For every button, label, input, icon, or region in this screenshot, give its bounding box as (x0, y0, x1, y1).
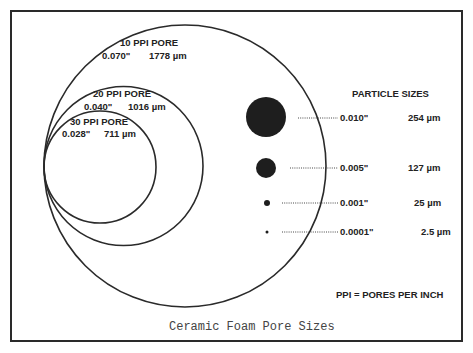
particle-0001-microns: 25 µm (414, 197, 441, 208)
particle-dot-00001 (266, 231, 269, 234)
particle-dot-0001 (264, 200, 270, 206)
pore-30ppi-label: 30 PPI PORE (70, 116, 128, 127)
particle-0005-microns: 127 µm (408, 162, 440, 173)
pore-20ppi-inches: 0.040" (84, 101, 112, 112)
pore-circle-10ppi (44, 25, 326, 307)
pore-size-diagram: 10 PPI PORE 0.070" 1778 µm 20 PPI PORE 0… (0, 0, 473, 353)
pore-30ppi-microns: 711 µm (104, 128, 136, 139)
pore-10ppi-microns: 1778 µm (149, 50, 187, 61)
particle-dot-0005 (256, 158, 276, 178)
figure-caption: Ceramic Foam Pore Sizes (169, 320, 335, 334)
pore-circle-20ppi (44, 87, 203, 246)
particle-0001-inches: 0.001" (340, 197, 368, 208)
particle-0010-microns: 254 µm (408, 112, 440, 123)
ppi-legend-note: PPI = PORES PER INCH (336, 289, 444, 300)
particle-00001-inches: 0.0001" (340, 226, 374, 237)
pore-10ppi-label: 10 PPI PORE (120, 37, 178, 48)
pore-20ppi-label: 20 PPI PORE (93, 88, 151, 99)
particle-0005-inches: 0.005" (340, 162, 368, 173)
pore-circle-30ppi (44, 111, 156, 223)
particle-00001-microns: 2.5 µm (421, 226, 451, 237)
particle-dot-0010 (246, 97, 286, 137)
pore-20ppi-microns: 1016 µm (128, 101, 166, 112)
particle-sizes-title: PARTICLE SIZES (352, 88, 429, 99)
pore-10ppi-inches: 0.070" (102, 50, 130, 61)
pore-30ppi-inches: 0.028" (62, 128, 90, 139)
particle-0010-inches: 0.010" (340, 112, 368, 123)
